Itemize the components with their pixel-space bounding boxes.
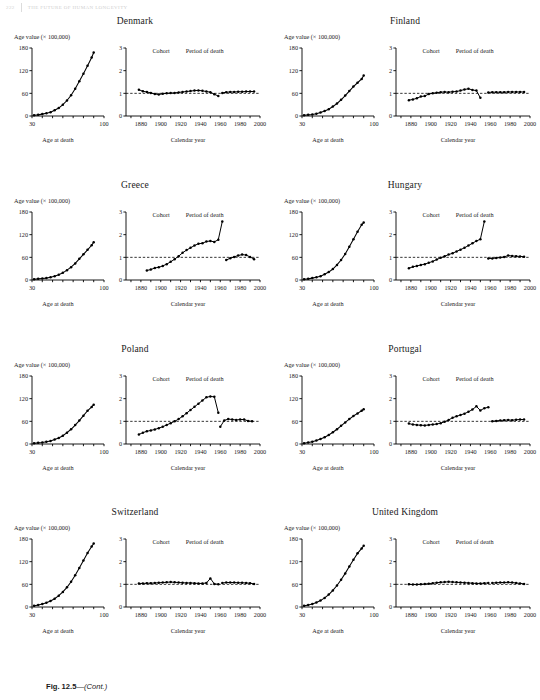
- country-chart-cell: FinlandAge value (× 100,000)060120180301…: [270, 14, 540, 178]
- x-axis-label-left: Age at death: [8, 627, 108, 634]
- country-chart-cell: PolandAge value (× 100,000)0601201803010…: [0, 342, 270, 506]
- svg-text:120: 120: [289, 394, 298, 401]
- country-title: Denmark: [0, 16, 270, 26]
- svg-text:30: 30: [29, 447, 35, 454]
- svg-text:120: 120: [19, 558, 28, 565]
- panel-pair: 06012018030100Age at death01231880190019…: [8, 370, 264, 462]
- svg-text:1920: 1920: [444, 120, 456, 127]
- svg-text:0: 0: [119, 112, 122, 119]
- svg-text:0: 0: [295, 276, 298, 283]
- x-axis-label-left: Age at death: [278, 627, 378, 634]
- svg-text:2: 2: [119, 394, 122, 401]
- x-axis-label-left: Age at death: [278, 300, 378, 307]
- figure-panel-grid: DenmarkAge value (× 100,000)060120180301…: [0, 14, 540, 669]
- x-axis-label-right: Calendar year: [112, 300, 264, 307]
- calendar-year-plot: 01231880190019201940196019802000CohortPe…: [382, 370, 534, 462]
- y-axis-label: Age value (× 100,000): [14, 33, 70, 40]
- svg-text:2: 2: [389, 558, 392, 565]
- svg-text:2: 2: [119, 558, 122, 565]
- svg-text:180: 180: [19, 536, 28, 543]
- svg-text:2000: 2000: [254, 611, 266, 618]
- svg-text:1880: 1880: [135, 447, 147, 454]
- svg-text:180: 180: [19, 208, 28, 215]
- svg-text:30: 30: [29, 120, 35, 127]
- svg-text:1: 1: [119, 90, 122, 97]
- svg-text:1960: 1960: [214, 447, 226, 454]
- svg-text:60: 60: [292, 417, 298, 424]
- svg-text:1900: 1900: [155, 447, 167, 454]
- svg-text:2: 2: [389, 67, 392, 74]
- svg-text:2: 2: [389, 231, 392, 238]
- svg-text:1980: 1980: [234, 120, 246, 127]
- svg-text:100: 100: [369, 283, 378, 290]
- svg-text:0: 0: [25, 112, 28, 119]
- x-axis-label-left: Age at death: [8, 464, 108, 471]
- x-axis-label-right: Calendar year: [382, 136, 534, 143]
- svg-text:1: 1: [389, 253, 392, 260]
- country-title: Greece: [0, 180, 270, 190]
- running-head: 222 THE FUTURE OF HUMAN LONGEVITY: [0, 0, 540, 14]
- svg-text:3: 3: [389, 208, 392, 215]
- svg-text:2000: 2000: [524, 611, 536, 618]
- country-chart-cell: GreeceAge value (× 100,000)0601201803010…: [0, 178, 270, 342]
- svg-text:180: 180: [19, 372, 28, 379]
- country-title: Poland: [0, 344, 270, 354]
- svg-text:3: 3: [389, 372, 392, 379]
- svg-text:100: 100: [99, 283, 108, 290]
- panel-pair: 06012018030100Age at death01231880190019…: [278, 533, 534, 625]
- svg-text:60: 60: [292, 253, 298, 260]
- panel-pair: 06012018030100Age at death01231880190019…: [8, 206, 264, 298]
- country-title: Switzerland: [0, 507, 270, 517]
- svg-text:1940: 1940: [464, 611, 476, 618]
- svg-text:1960: 1960: [484, 611, 496, 618]
- svg-text:1920: 1920: [444, 283, 456, 290]
- x-axis-label-right: Calendar year: [112, 464, 264, 471]
- x-axis-label-left: Age at death: [8, 300, 108, 307]
- svg-text:100: 100: [99, 611, 108, 618]
- svg-text:60: 60: [22, 253, 28, 260]
- y-axis-label: Age value (× 100,000): [284, 33, 340, 40]
- svg-text:1880: 1880: [405, 447, 417, 454]
- svg-text:1920: 1920: [444, 611, 456, 618]
- svg-text:1980: 1980: [234, 447, 246, 454]
- x-axis-label-right: Calendar year: [382, 300, 534, 307]
- calendar-year-plot: 01231880190019201940196019802000CohortPe…: [382, 206, 534, 298]
- svg-text:1880: 1880: [405, 283, 417, 290]
- caption-dash: —: [76, 682, 84, 691]
- running-head-title: THE FUTURE OF HUMAN LONGEVITY: [28, 5, 128, 10]
- svg-text:30: 30: [299, 120, 305, 127]
- svg-text:1960: 1960: [214, 611, 226, 618]
- svg-text:1940: 1940: [194, 611, 206, 618]
- svg-text:1980: 1980: [504, 120, 516, 127]
- x-axis-label-right: Calendar year: [382, 627, 534, 634]
- svg-text:0: 0: [25, 440, 28, 447]
- x-axis-label-left: Age at death: [278, 464, 378, 471]
- svg-text:180: 180: [289, 44, 298, 51]
- svg-text:60: 60: [22, 417, 28, 424]
- svg-text:2000: 2000: [524, 447, 536, 454]
- age-value-plot: 06012018030100Age at death: [278, 42, 378, 134]
- svg-text:180: 180: [19, 44, 28, 51]
- country-title: Portugal: [270, 344, 540, 354]
- svg-text:1900: 1900: [155, 120, 167, 127]
- svg-text:60: 60: [22, 90, 28, 97]
- svg-text:1: 1: [389, 90, 392, 97]
- calendar-year-plot: 01231880190019201940196019802000CohortPe…: [382, 42, 534, 134]
- country-chart-cell: SwitzerlandAge value (× 100,000)06012018…: [0, 505, 270, 669]
- page-number: 222: [6, 5, 15, 10]
- svg-text:1900: 1900: [155, 611, 167, 618]
- x-axis-label-right: Calendar year: [112, 627, 264, 634]
- caption-cont: (Cont.): [84, 682, 107, 691]
- svg-text:1940: 1940: [194, 447, 206, 454]
- svg-text:1980: 1980: [234, 283, 246, 290]
- svg-text:30: 30: [299, 283, 305, 290]
- svg-text:1880: 1880: [405, 120, 417, 127]
- svg-text:0: 0: [119, 440, 122, 447]
- svg-text:2000: 2000: [524, 120, 536, 127]
- svg-text:1920: 1920: [174, 283, 186, 290]
- panel-pair: 06012018030100Age at death01231880190019…: [278, 42, 534, 134]
- svg-text:1: 1: [389, 417, 392, 424]
- svg-text:1: 1: [119, 581, 122, 588]
- figure-caption: Fig. 12.5—(Cont.): [46, 682, 107, 691]
- svg-text:1: 1: [389, 581, 392, 588]
